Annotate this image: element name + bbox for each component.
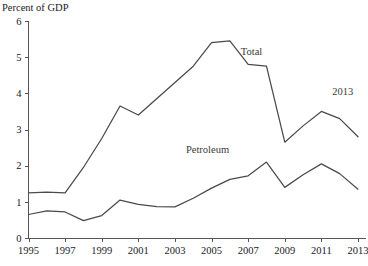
x-tick-label: 2005: [201, 245, 222, 256]
x-tick-label: 2007: [238, 245, 259, 256]
line-chart: Percent of GDP 0123456 19951997199920012…: [0, 0, 368, 266]
series-label-total: Total: [241, 46, 263, 57]
x-tick-label: 2011: [311, 245, 332, 256]
x-tick-label: 2009: [274, 245, 295, 256]
x-tick-label: 1995: [18, 245, 39, 256]
y-tick-label: 0: [16, 233, 21, 244]
x-tick-label: 2001: [128, 245, 149, 256]
x-tick-label: 2013: [348, 245, 368, 256]
series-label-petroleum: Petroleum: [186, 144, 229, 155]
y-tick-label: 5: [16, 52, 21, 63]
chart-container: Percent of GDP 0123456 19951997199920012…: [0, 0, 368, 266]
y-tick-label: 3: [16, 124, 21, 135]
x-tick-label: 1999: [91, 245, 112, 256]
y-axis-title: Percent of GDP: [2, 2, 69, 13]
y-tick-label: 4: [16, 88, 22, 99]
chart-annotations: 2013: [332, 86, 353, 97]
y-tick-label: 6: [16, 16, 21, 27]
annotation-2013: 2013: [332, 86, 353, 97]
x-tick-label: 2003: [164, 245, 185, 256]
y-tick-label: 1: [16, 197, 21, 208]
chart-background: [0, 0, 368, 266]
y-tick-label: 2: [16, 160, 21, 171]
x-tick-label: 1997: [55, 245, 76, 256]
